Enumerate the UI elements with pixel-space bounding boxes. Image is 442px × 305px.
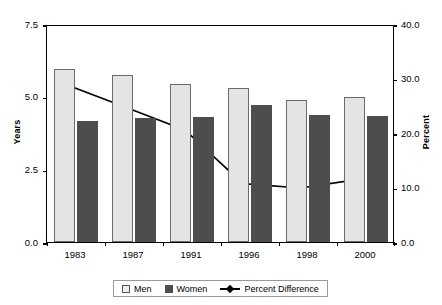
legend-label-percent-difference: Percent Difference	[244, 284, 318, 294]
bar-men	[112, 75, 134, 242]
x-tick-label: 1991	[162, 249, 220, 260]
x-tickmark	[163, 242, 164, 246]
x-tickmark	[105, 242, 106, 246]
bar-women	[309, 115, 331, 242]
x-tickmark	[337, 242, 338, 246]
legend-swatch-men-icon	[122, 285, 130, 293]
y-tick-label-left: 0.0	[8, 237, 38, 248]
legend-line-marker-icon	[220, 284, 240, 293]
y-tickmark-left	[43, 98, 47, 99]
x-tickmark	[221, 242, 222, 246]
legend-label-women: Women	[177, 284, 208, 294]
x-tick-label: 1998	[278, 249, 336, 260]
bar-women	[135, 118, 157, 242]
y-axis-ticks-left: 7.55.02.50.0	[8, 0, 38, 305]
legend-item-women: Women	[165, 284, 208, 294]
bar-men	[170, 84, 192, 242]
y-tick-label-right: 40.0	[401, 19, 437, 30]
y-axis-ticks-right: 40.030.020.010.00.0	[401, 0, 437, 305]
chart-legend: Men Women Percent Difference	[113, 280, 328, 297]
y-tick-label-left: 5.0	[8, 91, 38, 102]
legend-item-men: Men	[122, 284, 152, 294]
chart-container: Years Percent 7.55.02.50.0 40.030.020.01…	[0, 0, 442, 305]
plot-area	[46, 25, 394, 243]
percent-difference-line	[47, 26, 393, 242]
x-tick-label: 1983	[46, 249, 104, 260]
bar-men	[344, 97, 366, 242]
y-tickmark-right	[393, 189, 397, 190]
bar-men	[54, 69, 76, 242]
y-tick-label-left: 7.5	[8, 19, 38, 30]
bar-men	[228, 88, 250, 242]
bar-men	[286, 100, 308, 242]
y-tick-label-right: 0.0	[401, 237, 437, 248]
y-tickmark-right	[393, 25, 397, 26]
legend-swatch-women-icon	[165, 285, 173, 293]
x-tickmark	[279, 242, 280, 246]
y-tickmark-right	[393, 80, 397, 81]
x-axis-ticks: 198319871991199619982000	[46, 249, 394, 265]
x-tick-label: 1996	[220, 249, 278, 260]
bar-women	[367, 116, 389, 242]
y-tick-label-right: 10.0	[401, 182, 437, 193]
y-tick-label-left: 2.5	[8, 164, 38, 175]
x-tickmark	[394, 242, 395, 246]
x-tick-label: 2000	[336, 249, 394, 260]
y-tick-label-right: 20.0	[401, 128, 437, 139]
y-tickmark-right	[393, 134, 397, 135]
x-tickmark	[47, 242, 48, 246]
legend-item-percent-difference: Percent Difference	[220, 284, 318, 294]
y-tickmark-left	[43, 25, 47, 26]
bar-women	[77, 121, 99, 242]
bar-women	[193, 117, 215, 242]
x-tick-label: 1987	[104, 249, 162, 260]
bar-women	[251, 105, 273, 242]
legend-label-men: Men	[134, 284, 152, 294]
y-tickmark-left	[43, 171, 47, 172]
y-tick-label-right: 30.0	[401, 73, 437, 84]
